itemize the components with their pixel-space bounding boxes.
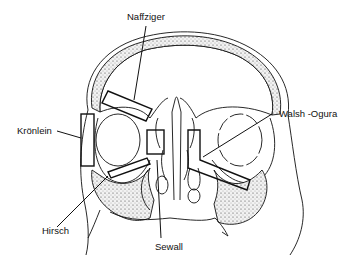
right-orbit (218, 114, 262, 166)
sewall-leader (157, 160, 161, 238)
label-walsh-ogura: Walsh -Ogura (279, 109, 337, 119)
skull-coronal-section (0, 0, 353, 258)
label-kronlein: Krönlein (17, 126, 52, 136)
kronlein-leader (57, 131, 81, 138)
label-naffziger: Naffziger (127, 12, 165, 22)
kronlein-box (81, 114, 94, 166)
hirsch-leader (57, 176, 108, 227)
diagram-canvas: Naffziger Krönlein Walsh -Ogura Hirsch S… (0, 0, 353, 258)
left-orbit (96, 114, 140, 166)
sewall-box (147, 130, 164, 154)
label-hirsch: Hirsch (42, 226, 69, 236)
skull-outer-contour (87, 32, 303, 255)
nasal-septum (172, 100, 181, 200)
naffziger-leader (134, 26, 146, 100)
label-sewall: Sewall (155, 242, 183, 252)
